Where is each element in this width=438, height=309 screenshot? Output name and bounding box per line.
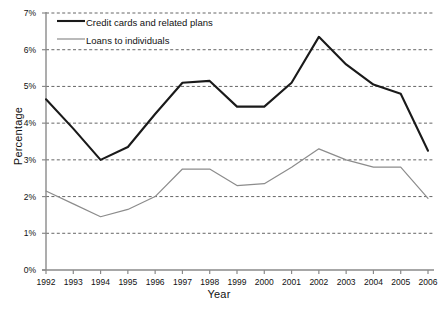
legend-item-loans: Loans to individuals [86,35,169,46]
y-axis-title: Percentage [12,91,24,181]
x-tick-label: 1996 [140,277,170,287]
x-tick-label: 1997 [167,277,197,287]
chart-plot-area [0,0,438,309]
x-tick-label: 2000 [249,277,279,287]
legend-line-samples [57,21,85,39]
x-tick-label: 2005 [386,277,416,287]
y-tick-label: 0% [10,265,36,275]
x-tick-label: 2003 [331,277,361,287]
x-axis-title: Year [0,288,438,300]
x-tick-label: 2004 [358,277,388,287]
x-tick-label: 1993 [58,277,88,287]
gridlines [46,13,434,233]
line-chart: Percentage Year 0%1%2%3%4%5%6%7% 1992199… [0,0,438,309]
series-line-1 [46,37,428,160]
y-tick-label: 2% [10,192,36,202]
x-tick-label: 1995 [113,277,143,287]
x-tick-label: 2006 [413,277,438,287]
y-tick-label: 6% [10,45,36,55]
x-tick-label: 2002 [304,277,334,287]
x-tick-label: 1998 [195,277,225,287]
x-tick-label: 1994 [86,277,116,287]
data-series-group [46,37,428,217]
y-tick-label: 1% [10,228,36,238]
axis-lines [42,12,434,270]
x-tick-label: 1999 [222,277,252,287]
x-tick-label: 2001 [277,277,307,287]
y-tick-label: 3% [10,155,36,165]
y-tick-label: 4% [10,118,36,128]
y-tick-label: 5% [10,81,36,91]
x-tick-label: 1992 [31,277,61,287]
y-tick-label: 7% [10,8,36,18]
legend-item-credit-cards: Credit cards and related plans [86,17,213,28]
